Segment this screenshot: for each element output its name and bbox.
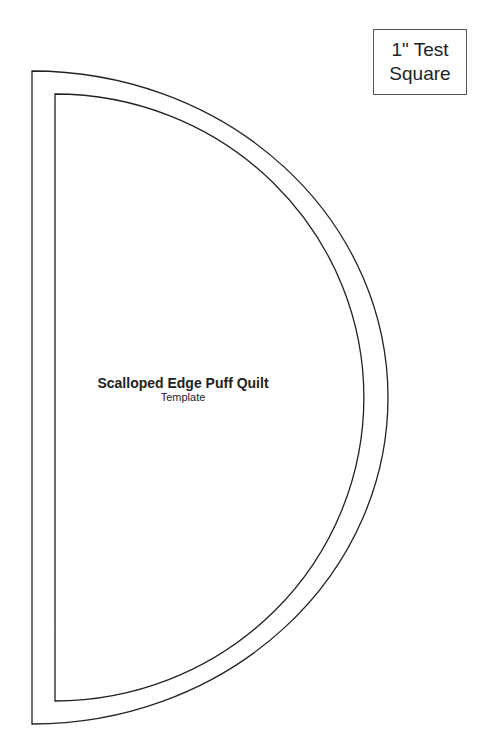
template-title: Scalloped Edge Puff Quilt bbox=[55, 375, 311, 391]
test-square: 1" Test Square bbox=[373, 29, 467, 95]
test-square-line2: Square bbox=[389, 62, 450, 86]
template-label: Scalloped Edge Puff Quilt Template bbox=[55, 375, 311, 403]
template-subtitle: Template bbox=[55, 391, 311, 403]
test-square-line1: 1" Test bbox=[391, 38, 448, 62]
